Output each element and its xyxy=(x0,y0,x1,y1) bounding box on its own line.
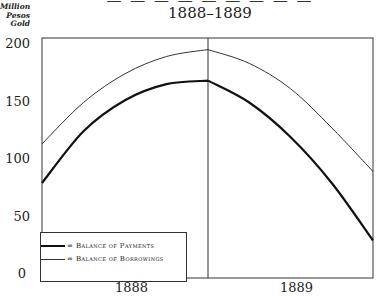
legend-item-borrowings: = Balance of Borrowings xyxy=(41,254,164,264)
x-tick-1889: 1889 xyxy=(280,280,313,295)
legend-label: = Balance of Borrowings xyxy=(67,255,164,263)
thin-line-swatch xyxy=(41,259,65,260)
x-tick-1888: 1888 xyxy=(115,280,148,295)
thick-line-swatch xyxy=(41,245,65,247)
legend: = Balance of Payments = Balance of Borro… xyxy=(40,232,187,282)
legend-label: = Balance of Payments xyxy=(67,242,154,250)
legend-item-payments: = Balance of Payments xyxy=(41,241,154,251)
